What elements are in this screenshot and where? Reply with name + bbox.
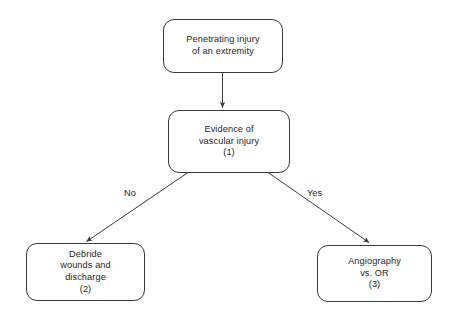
edge-label-yes: Yes [307, 188, 322, 198]
node-penetrating-injury[interactable]: Penetrating injury of an extremity [163, 19, 283, 73]
flowchart-diagram: Penetrating injury of an extremity Evide… [0, 0, 449, 316]
node-debride-wounds-line-4: (2) [80, 284, 92, 296]
node-penetrating-injury-line-2: of an extremity [192, 46, 254, 58]
node-penetrating-injury-line-1: Penetrating injury [186, 34, 259, 46]
node-angiography-or-line-1: Angiography [348, 256, 401, 268]
node-angiography-or[interactable]: Angiography vs. OR (3) [317, 245, 432, 302]
edge-label-no: No [124, 188, 136, 198]
node-debride-wounds-line-2: wounds and [60, 260, 111, 272]
node-angiography-or-line-3: (3) [369, 279, 381, 291]
node-evidence-vascular-injury-line-2: vascular injury [199, 136, 259, 148]
node-debride-wounds[interactable]: Debride wounds and discharge (2) [26, 243, 145, 301]
node-evidence-vascular-injury-line-1: Evidence of [204, 124, 253, 136]
node-evidence-vascular-injury-line-3: (1) [223, 147, 235, 159]
node-debride-wounds-line-1: Debride [69, 249, 102, 261]
node-evidence-vascular-injury[interactable]: Evidence of vascular injury (1) [168, 110, 290, 173]
connector-evidence-to-debride [87, 173, 189, 242]
node-angiography-or-line-2: vs. OR [360, 268, 389, 280]
node-debride-wounds-line-3: discharge [65, 272, 106, 284]
connector-evidence-to-angiography [268, 173, 369, 243]
